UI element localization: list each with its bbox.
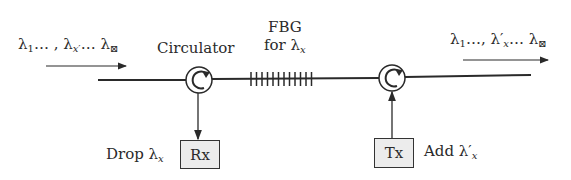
output-wavelengths-label: λ1…, λ′x… λ⊠: [450, 32, 547, 49]
rx-receiver-box: Rx: [180, 140, 220, 169]
drop-label: Drop λx: [106, 147, 164, 164]
fbg-label: FBG for λx: [264, 20, 306, 55]
oadm-diagram: λ1… , λx′… λ⊠ Circulator FBG for λx λ1…,…: [0, 0, 571, 180]
add-label: Add λ′x: [424, 144, 477, 161]
circulator-2-icon: [379, 65, 405, 91]
circulator-1-icon: [186, 67, 212, 93]
circulator-label: Circulator: [157, 41, 234, 56]
input-wavelengths-label: λ1… , λx′… λ⊠: [18, 37, 118, 54]
fiber-output: [405, 75, 531, 77]
tx-transmitter-box: Tx: [374, 138, 414, 168]
